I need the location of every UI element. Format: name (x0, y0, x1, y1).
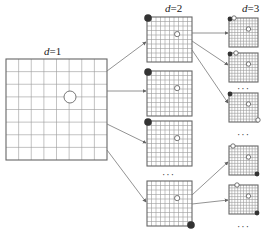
open-marker-icon (235, 183, 239, 187)
open-marker-icon (175, 196, 180, 201)
filled-marker-icon (228, 52, 233, 57)
arrow-icon (192, 162, 228, 195)
grid-d3-3 (228, 92, 261, 123)
ellipsis-d3-1: ··· (237, 83, 250, 94)
grid-d1 (6, 59, 107, 160)
grid-d3-4 (229, 144, 259, 177)
arrows-d1-to-d2 (107, 42, 146, 202)
grid-d3-1 (228, 16, 258, 47)
label-d1-eq: =1 (50, 45, 62, 57)
filled-marker-icon (228, 92, 233, 97)
grid-d2-1 (144, 14, 192, 62)
open-marker-icon (234, 51, 238, 55)
ellipsis-d2: ··· (162, 169, 175, 180)
filled-marker-icon (255, 211, 260, 216)
grid-d3-5 (229, 183, 259, 216)
ellipsis-d3-2: ··· (237, 129, 250, 140)
filled-marker-icon (187, 221, 195, 229)
open-marker-icon (231, 144, 235, 148)
grid-d2-2 (144, 68, 192, 116)
open-marker-icon (232, 16, 236, 20)
grid-d3-2 (228, 51, 258, 82)
arrows-d2-to-d3 (192, 33, 228, 204)
open-marker-icon (256, 118, 260, 122)
open-marker-icon (246, 62, 250, 66)
filled-marker-icon (144, 68, 152, 76)
open-marker-icon (246, 102, 250, 106)
grid-d2-3 (144, 118, 192, 166)
open-marker-icon (246, 27, 250, 31)
label-d3: d=3 (242, 2, 260, 14)
open-marker-icon (246, 155, 250, 159)
label-d1: d=1 (44, 45, 61, 57)
grid-d2-4 (147, 181, 195, 229)
arrow-icon (192, 200, 228, 204)
filled-marker-icon (255, 172, 260, 177)
arrow-icon (107, 42, 146, 71)
ellipsis-d3-3: ··· (237, 221, 250, 232)
open-marker-icon (246, 194, 250, 198)
diagram-canvas: d=1 d=2 d=3 ··· ··· ··· ··· (0, 0, 264, 232)
arrow-icon (107, 150, 146, 202)
open-marker-icon (175, 86, 180, 91)
arrow-icon (107, 124, 146, 143)
label-d2: d=2 (165, 2, 182, 14)
open-marker-icon (175, 136, 180, 141)
open-marker-icon (175, 31, 180, 36)
arrow-icon (192, 41, 228, 65)
filled-marker-icon (144, 118, 152, 126)
open-marker-icon (64, 91, 76, 103)
arrow-icon (192, 50, 228, 103)
filled-marker-icon (144, 14, 152, 22)
